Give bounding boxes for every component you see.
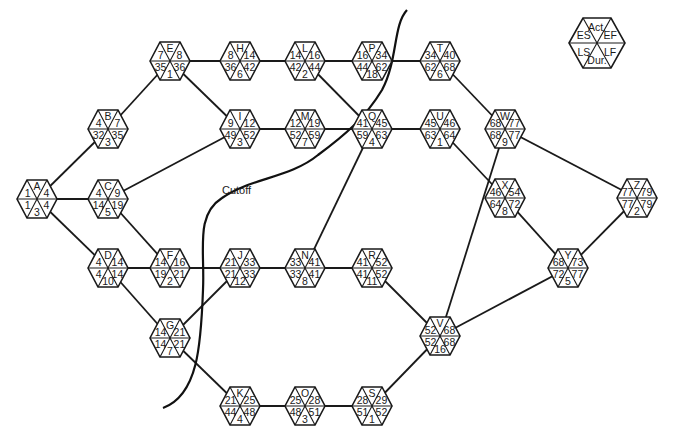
- early-finish: 25: [244, 394, 256, 406]
- early-finish: 4: [43, 187, 49, 199]
- duration: 5: [105, 206, 111, 218]
- early-finish: 21: [174, 326, 186, 338]
- late-start: 48: [290, 406, 302, 418]
- duration: 10: [102, 275, 114, 287]
- early-finish: 19: [309, 117, 321, 129]
- early-start: 46: [490, 186, 502, 198]
- early-start: 14: [155, 256, 167, 268]
- late-finish: 35: [112, 129, 124, 141]
- late-finish: 52: [244, 129, 256, 141]
- late-start: 19: [155, 268, 167, 280]
- early-finish: 45: [376, 117, 388, 129]
- late-finish: 4: [43, 199, 49, 211]
- activity-label: Y: [564, 249, 571, 261]
- duration: 8: [502, 205, 508, 217]
- late-finish: 59: [309, 129, 321, 141]
- node-P: P1634446218: [352, 42, 392, 80]
- duration: 7: [302, 136, 308, 148]
- early-finish: 12: [244, 117, 256, 129]
- late-finish: 63: [376, 129, 388, 141]
- late-finish: 19: [112, 199, 124, 211]
- early-finish: 16: [174, 256, 186, 268]
- late-start: 49: [225, 129, 237, 141]
- early-start: 68: [553, 256, 565, 268]
- duration: 4: [237, 413, 243, 425]
- early-finish: 46: [444, 117, 456, 129]
- early-finish: 14: [244, 49, 256, 61]
- early-finish: 7: [114, 117, 120, 129]
- early-start: 21: [225, 256, 237, 268]
- node-F: F141619212: [150, 249, 190, 287]
- late-start: 42: [290, 61, 302, 73]
- duration: 16: [434, 343, 446, 355]
- duration: 3: [105, 136, 111, 148]
- node-T: T344062686: [420, 42, 460, 80]
- early-start: 16: [357, 49, 369, 61]
- node-N: N334133418: [285, 249, 325, 287]
- late-start: 63: [425, 129, 437, 141]
- edge-V-Y: [440, 268, 568, 336]
- activity-label: S: [368, 387, 375, 399]
- late-start: 44: [225, 406, 237, 418]
- early-start: 4: [96, 256, 102, 268]
- early-finish: 54: [509, 186, 521, 198]
- late-start: 62: [425, 61, 437, 73]
- duration: 7: [167, 345, 173, 357]
- early-finish: 41: [309, 256, 321, 268]
- early-start: 41: [357, 256, 369, 268]
- node-X: X465464728: [485, 179, 525, 217]
- edge-N-Q: [305, 129, 372, 268]
- early-finish: 29: [376, 394, 388, 406]
- early-finish: 52: [376, 256, 388, 268]
- early-start: 41: [357, 117, 369, 129]
- early-start: 14: [155, 326, 167, 338]
- late-start: 4: [96, 268, 102, 280]
- early-finish: 16: [309, 49, 321, 61]
- early-finish: 8: [176, 49, 182, 61]
- activity-label: I: [239, 110, 242, 122]
- duration: 2: [634, 205, 640, 217]
- early-start: 68: [490, 117, 502, 129]
- early-start: 1: [25, 187, 31, 199]
- early-start: ES: [577, 29, 591, 41]
- late-start: 59: [357, 129, 369, 141]
- duration: 3: [302, 413, 308, 425]
- late-finish: 41: [309, 268, 321, 280]
- dependency-edges: [37, 61, 637, 406]
- late-start: 33: [290, 268, 302, 280]
- duration: 1: [369, 413, 375, 425]
- early-finish: 77: [509, 117, 521, 129]
- duration: 2: [302, 68, 308, 80]
- late-start: 77: [622, 198, 634, 210]
- early-start: 21: [225, 394, 237, 406]
- late-finish: 48: [244, 406, 256, 418]
- duration: 9: [502, 136, 508, 148]
- duration: 11: [367, 275, 378, 287]
- activity-label: A: [33, 180, 40, 192]
- late-finish: 21: [174, 338, 186, 350]
- edge-C-I: [108, 129, 240, 199]
- early-start: 9: [228, 117, 234, 129]
- late-start: 68: [490, 129, 502, 141]
- legend-node: Act.ESEFLSLFDur.: [569, 18, 625, 68]
- duration: 4: [369, 136, 375, 148]
- activity-nodes: A14143B4732353C4914195D41441410E7835361F…: [17, 42, 657, 425]
- late-start: 35: [155, 61, 167, 73]
- late-finish: 52: [376, 406, 388, 418]
- late-start: 32: [93, 129, 105, 141]
- duration: 6: [237, 68, 243, 80]
- edge-V-W: [440, 129, 505, 336]
- early-finish: 40: [444, 49, 456, 61]
- duration: 18: [366, 68, 378, 80]
- early-start: 28: [357, 394, 369, 406]
- early-finish: 14: [112, 256, 124, 268]
- late-start: 52: [290, 129, 302, 141]
- late-finish: 77: [509, 129, 521, 141]
- node-H: H81436426: [220, 42, 260, 80]
- legend-hexagon: Act.ESEFLSLFDur.: [569, 18, 625, 68]
- early-finish: 79: [641, 186, 653, 198]
- early-start: 77: [622, 186, 634, 198]
- early-start: 25: [290, 394, 302, 406]
- late-finish: 51: [309, 406, 321, 418]
- activity-label: K: [236, 387, 243, 399]
